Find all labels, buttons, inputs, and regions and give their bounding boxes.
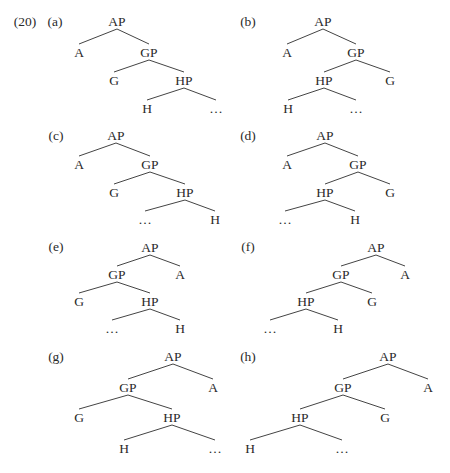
node-g: G [385,73,395,88]
branch-GP-G [356,60,390,72]
tree-label: (e) [49,239,64,254]
branch-GP-HP [150,172,185,184]
node-a: A [282,157,292,172]
node-a: A [74,45,84,60]
node-h: H [119,441,129,456]
example-number: (20) [14,14,37,29]
branch-AP-GP [323,29,356,44]
branch-GP-G [114,60,149,72]
node-hp: HP [141,294,158,309]
node-g: G [385,185,395,200]
tree-label: (h) [240,349,256,364]
node-dots: … [105,321,119,336]
node-ap: AP [367,240,384,255]
branch-AP-GP [116,143,150,156]
branch-HP-dots [285,200,325,211]
branch-HP-dots [145,200,185,211]
branch-AP-GP [341,255,376,266]
branch-AP-A [79,29,117,44]
node-dots: … [349,101,363,116]
node-h: H [210,212,220,227]
branch-GP-HP [149,60,184,72]
node-ap: AP [314,14,331,29]
tree-e: (e)APGPAGHP…H [49,239,186,336]
branch-GP-HP [325,172,358,184]
branch-HP-dots [300,425,342,440]
branch-GP-G [79,282,117,293]
branch-AP-GP [117,255,150,266]
node-a: A [423,380,433,395]
branch-HP-H [147,88,184,100]
node-hp: HP [315,73,332,88]
branch-HP-dots [184,88,216,100]
tree-label: (f) [241,239,255,254]
branch-AP-A [173,364,213,379]
branch-GP-HP [306,282,341,293]
branch-HP-H [185,200,215,211]
node-dots: … [208,441,222,456]
tree-diagram-figure: (20) (a)APAGPGHPH…(b)APAGPHPGH…(c)APAGPG… [0,0,450,473]
node-a: A [175,267,185,282]
node-hp: HP [291,410,308,425]
branch-AP-A [150,255,180,266]
tree-label: (g) [48,349,64,364]
node-ap: AP [108,14,125,29]
node-dots: … [138,212,152,227]
node-gp: GP [141,157,158,172]
node-gp: GP [349,157,366,172]
tree-a: (a)APAGPGHPH… [48,14,223,116]
tree-h: (h)APGPAHPGH… [240,349,433,456]
node-ap: AP [164,349,181,364]
tree-b: (b)APAGPHPGH… [240,14,395,116]
branch-HP-dots [172,425,215,440]
node-h: H [142,101,152,116]
node-a: A [208,380,218,395]
branch-HP-H [306,309,338,320]
node-gp: GP [347,45,364,60]
branch-GP-G [358,172,390,184]
node-gp: GP [108,267,125,282]
node-h: H [245,441,255,456]
branch-HP-dots [324,88,356,100]
node-ap: AP [107,128,124,143]
node-hp: HP [163,410,180,425]
branch-HP-dots [270,309,306,320]
branch-AP-A [287,29,323,44]
node-hp: HP [316,185,333,200]
branch-GP-G [341,282,372,293]
branch-HP-H [150,309,180,320]
node-ap: AP [141,240,158,255]
tree-f: (f)APGPAHPG…H [241,239,410,336]
node-hp: HP [175,73,192,88]
branch-AP-A [79,143,116,156]
node-h: H [350,212,360,227]
branch-HP-H [288,88,324,100]
branch-AP-GP [343,364,388,379]
node-g: G [109,73,119,88]
node-g: G [74,410,84,425]
node-dots: … [335,441,349,456]
branch-GP-HP [324,60,356,72]
tree-label: (a) [48,14,63,29]
branch-HP-H [325,200,355,211]
node-dots: … [209,101,223,116]
branch-AP-A [287,143,325,156]
node-gp: GP [332,267,349,282]
branch-AP-GP [117,29,149,44]
branch-HP-H [124,425,172,440]
branch-GP-HP [117,282,150,293]
tree-c: (c)APAGPGHP…H [49,128,221,227]
node-dots: … [278,212,292,227]
node-a: A [282,45,292,60]
node-h: H [175,321,185,336]
branch-GP-HP [128,395,172,409]
tree-label: (d) [240,128,256,143]
tree-label: (c) [49,128,64,143]
branch-AP-GP [325,143,358,156]
node-gp: GP [334,380,351,395]
branch-AP-A [388,364,428,379]
node-gp: GP [140,45,157,60]
node-g: G [74,294,84,309]
branch-HP-H [250,425,300,440]
branch-AP-GP [128,364,173,379]
